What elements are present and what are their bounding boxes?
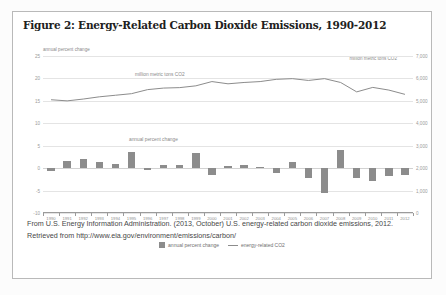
x-axis-tickmark: [123, 213, 124, 216]
left-axis-title: annual percent change: [43, 47, 90, 52]
legend-item-bars: annual percent change: [159, 242, 219, 248]
left-axis-tick-label: 25: [35, 54, 40, 59]
figure-caption: From U.S. Energy Information Administrat…: [27, 218, 417, 242]
x-axis-tickmark: [43, 213, 44, 216]
legend-line-icon: [228, 245, 238, 246]
x-axis-tickmark: [75, 213, 76, 216]
left-axis-tick-label: -5: [36, 188, 40, 193]
x-axis-tickmark: [91, 213, 92, 216]
x-axis-tickmark: [252, 213, 253, 216]
line-series-energy-related-co2: [43, 56, 413, 213]
x-axis-tickmark: [140, 213, 141, 216]
x-axis-tickmark: [397, 213, 398, 216]
figure-container: Figure 2: Energy-Related Carbon Dioxide …: [12, 11, 432, 279]
left-axis-tick-label: 0: [37, 166, 40, 171]
line-path: [51, 79, 405, 101]
x-axis-tickmark: [188, 213, 189, 216]
x-axis-tickmark: [172, 213, 173, 216]
x-axis-tickmark: [156, 213, 157, 216]
x-axis-tickmark: [316, 213, 317, 216]
x-axis-tickmark: [236, 213, 237, 216]
legend-square-icon: [159, 242, 165, 248]
right-axis-tick-label: 5,000: [416, 98, 428, 103]
x-axis-tickmark: [204, 213, 205, 216]
legend-item-line: energy-related CO2: [228, 242, 285, 248]
chart-legend: annual percent change energy-related CO2: [13, 242, 431, 248]
x-axis-line: [43, 212, 413, 213]
right-axis-tick-label: 4,000: [416, 121, 428, 126]
x-axis-tickmark: [107, 213, 108, 216]
left-axis-tick-label: 5: [37, 143, 40, 148]
annotation-line-label: million metric tons CO2: [135, 72, 185, 77]
right-axis-tick-label: 3,000: [416, 143, 428, 148]
right-axis-tick-label: 1,000: [416, 188, 428, 193]
x-axis-tickmark: [220, 213, 221, 216]
x-axis-tickmark: [59, 213, 60, 216]
x-axis-tickmark: [268, 213, 269, 216]
x-axis-tickmark: [381, 213, 382, 216]
right-axis-tick-label: 2,000: [416, 166, 428, 171]
figure-title: Figure 2: Energy-Related Carbon Dioxide …: [23, 19, 386, 31]
left-axis-tick-label: -10: [33, 211, 40, 216]
x-axis-tickmark: [365, 213, 366, 216]
legend-label-line: energy-related CO2: [241, 242, 285, 248]
gridline: [43, 213, 413, 214]
left-axis-tick-label: 10: [35, 121, 40, 126]
x-axis-tickmark: [349, 213, 350, 216]
left-axis-tick-label: 20: [35, 76, 40, 81]
annotation-bars-label: annual percent change: [129, 137, 178, 142]
right-axis-tick-label: 0: [416, 211, 419, 216]
x-axis-tickmark: [284, 213, 285, 216]
right-axis-tick-label: 6,000: [416, 76, 428, 81]
x-axis-tickmark: [413, 213, 414, 216]
plot-area: 2520151050-5-10 7,0006,0005,0004,0003,00…: [43, 56, 413, 213]
figure-screenshot: Figure 2: Energy-Related Carbon Dioxide …: [0, 0, 446, 295]
x-axis-tickmark: [333, 213, 334, 216]
legend-label-bars: annual percent change: [168, 242, 219, 248]
left-axis-tick-label: 15: [35, 98, 40, 103]
x-axis-tickmark: [300, 213, 301, 216]
right-axis-tick-label: 7,000: [416, 54, 428, 59]
